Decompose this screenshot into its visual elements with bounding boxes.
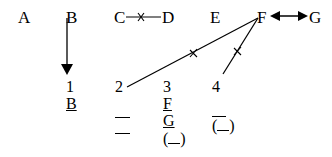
- slot-3-paren-blank: (): [163, 131, 186, 147]
- slot-4-number: 4: [212, 79, 220, 95]
- blocked-edge-f-4: [223, 18, 258, 74]
- node-f: F: [257, 9, 266, 26]
- slot-3-entry-f: F: [163, 96, 172, 112]
- node-g: G: [309, 9, 321, 26]
- blocked-edge-c-d: [126, 13, 161, 21]
- node-a: A: [18, 9, 30, 26]
- slot-3-entry-g: G: [163, 113, 175, 129]
- bidirectional-edge-f-g: [270, 11, 308, 21]
- slot-3-number: 3: [163, 79, 171, 95]
- node-b: B: [66, 9, 77, 26]
- slot-1-entry-b: B: [66, 96, 77, 112]
- slot-1-number: 1: [66, 79, 74, 95]
- node-e: E: [210, 9, 220, 26]
- node-c: C: [114, 9, 125, 26]
- slot-2-blank-2: [115, 133, 130, 134]
- slot-2-blank-1: [115, 117, 130, 118]
- slot-4-paren-blank: (): [212, 118, 235, 134]
- node-d: D: [162, 9, 174, 26]
- slot-2-number: 2: [115, 79, 123, 95]
